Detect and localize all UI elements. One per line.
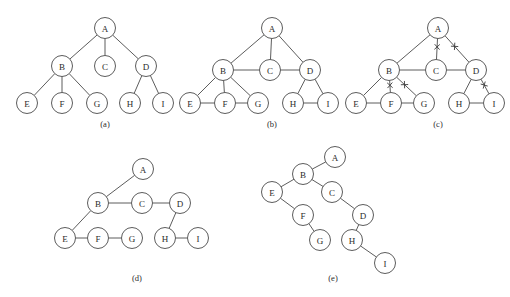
graph-node-D[interactable]: D xyxy=(300,60,321,81)
graph-node-A[interactable]: A xyxy=(428,18,449,39)
graph-node-E[interactable]: E xyxy=(180,93,201,114)
graph-node-H[interactable]: H xyxy=(283,93,304,114)
edge-B-E[interactable] xyxy=(34,74,55,96)
edge-A-B[interactable] xyxy=(397,35,430,63)
edge-A-B[interactable] xyxy=(70,35,97,59)
graph-node-G[interactable]: G xyxy=(414,93,435,114)
edge-D-H[interactable] xyxy=(134,76,142,94)
graph-node-F[interactable]: F xyxy=(88,228,109,249)
node-label-D: D xyxy=(143,62,150,72)
graph-node-G[interactable]: G xyxy=(122,228,143,249)
graph-node-I[interactable]: I xyxy=(153,93,174,114)
graph-node-I[interactable]: I xyxy=(188,228,209,249)
edge-A-B[interactable] xyxy=(231,35,264,63)
edge-A-D[interactable] xyxy=(279,36,303,62)
edge-D-I[interactable] xyxy=(481,79,489,94)
graph-node-G[interactable]: G xyxy=(87,93,108,114)
graph-node-I[interactable]: I xyxy=(375,253,396,274)
edge-D-H[interactable] xyxy=(169,213,176,229)
graph-node-B[interactable]: B xyxy=(213,60,234,81)
edge-A-C[interactable] xyxy=(436,38,437,59)
node-label-B: B xyxy=(386,66,392,76)
node-label-C: C xyxy=(267,66,273,76)
edge-B-E[interactable] xyxy=(72,211,91,231)
graph-node-H[interactable]: H xyxy=(449,93,470,114)
graph-panel-a: ABCDEFGHI(a) xyxy=(17,18,174,130)
graph-node-E[interactable]: E xyxy=(346,93,367,114)
panel-caption-e: (e) xyxy=(328,273,338,283)
graph-node-D[interactable]: D xyxy=(466,60,487,81)
node-label-A: A xyxy=(332,153,339,163)
node-label-A: A xyxy=(435,24,442,34)
node-label-B: B xyxy=(300,170,306,180)
graph-node-F[interactable]: F xyxy=(52,93,73,114)
edge-B-E[interactable] xyxy=(363,77,381,95)
graph-node-I[interactable]: I xyxy=(484,93,505,114)
graph-node-A[interactable]: A xyxy=(325,147,346,168)
edge-A-B[interactable] xyxy=(106,175,134,196)
graph-node-C[interactable]: C xyxy=(132,193,153,214)
graph-node-E[interactable]: E xyxy=(55,228,76,249)
node-label-G: G xyxy=(129,234,136,244)
edge-A-B[interactable] xyxy=(312,162,325,169)
edge-A-C[interactable] xyxy=(270,38,271,59)
node-label-G: G xyxy=(94,99,101,109)
edge-D-H[interactable] xyxy=(298,79,305,93)
graph-node-G[interactable]: G xyxy=(248,93,269,114)
graph-node-H[interactable]: H xyxy=(342,230,363,251)
edge-C-D[interactable] xyxy=(340,198,354,208)
edge-F-G[interactable] xyxy=(309,224,314,232)
graph-node-D[interactable]: D xyxy=(136,56,157,77)
edge-E-F[interactable] xyxy=(280,198,294,208)
panel-caption-d: (d) xyxy=(132,273,142,283)
graph-node-F[interactable]: F xyxy=(215,93,236,114)
node-label-F: F xyxy=(222,99,227,109)
edge-D-H[interactable] xyxy=(356,225,359,231)
edge-B-G[interactable] xyxy=(231,77,251,96)
node-label-I: I xyxy=(327,99,330,109)
node-label-H: H xyxy=(456,99,463,109)
graph-node-F[interactable]: F xyxy=(381,93,402,114)
edge-B-C[interactable] xyxy=(312,180,323,187)
graph-node-C[interactable]: C xyxy=(322,182,343,203)
edge-D-I[interactable] xyxy=(150,76,158,94)
graph-node-D[interactable]: D xyxy=(170,193,191,214)
edge-B-F[interactable] xyxy=(390,80,391,92)
graph-node-C[interactable]: C xyxy=(95,56,116,77)
graph-node-I[interactable]: I xyxy=(318,93,339,114)
edge-B-E[interactable] xyxy=(197,77,215,95)
graph-node-A[interactable]: A xyxy=(262,18,283,39)
graph-node-E[interactable]: E xyxy=(17,93,38,114)
edge-D-I[interactable] xyxy=(315,79,323,94)
node-label-A: A xyxy=(140,165,147,175)
graph-node-F[interactable]: F xyxy=(293,205,314,226)
graph-node-H[interactable]: H xyxy=(120,93,141,114)
graph-node-H[interactable]: H xyxy=(155,228,176,249)
node-label-G: G xyxy=(255,99,262,109)
graph-node-B[interactable]: B xyxy=(88,193,109,214)
edge-H-I[interactable] xyxy=(361,246,377,257)
graph-node-A[interactable]: A xyxy=(95,18,116,39)
graph-node-C[interactable]: C xyxy=(426,60,447,81)
edge-A-D[interactable] xyxy=(113,35,139,59)
graph-node-G[interactable]: G xyxy=(310,230,331,251)
edge-B-F[interactable] xyxy=(224,80,225,92)
graph-node-C[interactable]: C xyxy=(260,60,281,81)
edge-D-H[interactable] xyxy=(464,79,471,93)
edge-B-G[interactable] xyxy=(69,74,90,96)
edge-A-D[interactable] xyxy=(445,36,469,62)
graph-node-B[interactable]: B xyxy=(293,164,314,185)
node-label-H: H xyxy=(349,236,356,246)
graph-node-A[interactable]: A xyxy=(133,159,154,180)
node-label-A: A xyxy=(269,24,276,34)
node-label-C: C xyxy=(329,188,335,198)
graph-node-B[interactable]: B xyxy=(379,60,400,81)
graph-canvas: ABCDEFGHI(a)ABCDEFGHI(b)ABCDEFGHI(c)ABCD… xyxy=(0,0,510,297)
node-label-C: C xyxy=(433,66,439,76)
edge-B-G[interactable] xyxy=(397,77,417,96)
edge-B-E[interactable] xyxy=(281,179,294,186)
graph-node-D[interactable]: D xyxy=(353,205,374,226)
node-label-H: H xyxy=(290,99,297,109)
graph-node-E[interactable]: E xyxy=(262,182,283,203)
graph-node-B[interactable]: B xyxy=(52,56,73,77)
